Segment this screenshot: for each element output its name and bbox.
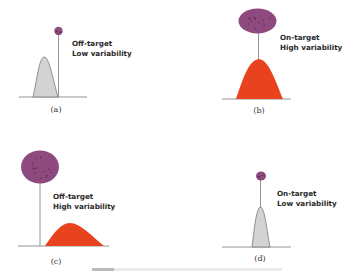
panel-c-line2: High variability — [53, 202, 116, 211]
target-marker — [256, 172, 266, 181]
distribution-curve-low-variability — [252, 207, 270, 247]
target-speck — [46, 175, 47, 176]
target-speck — [259, 176, 260, 177]
panel-a-line2: Low variability — [72, 49, 132, 58]
distribution-curve-low-variability — [33, 57, 58, 97]
target-speck — [46, 177, 47, 178]
target-speck — [36, 168, 37, 169]
panel-b-label: (b) — [253, 106, 264, 115]
panel-d-label: (d) — [254, 254, 265, 263]
target-speck — [258, 22, 259, 23]
target-speck — [250, 20, 251, 21]
target-speck — [44, 171, 45, 172]
target-speck — [33, 162, 34, 163]
distribution-curve-high-variability — [236, 59, 283, 99]
target-speck — [264, 24, 265, 25]
target-speck — [40, 178, 41, 179]
target-speck — [35, 158, 36, 159]
target-speck — [59, 31, 60, 32]
target-marker — [54, 27, 62, 35]
target-marker — [21, 151, 59, 184]
target-speck — [254, 16, 255, 17]
target-speck — [35, 172, 36, 173]
target-speck — [248, 24, 249, 25]
panel-a-label: (a) — [50, 105, 61, 114]
target-speck — [56, 31, 57, 32]
panel-d: On-target Low variability (d) — [222, 172, 337, 264]
target-speck — [248, 18, 249, 19]
target-marker — [239, 9, 277, 34]
target-speck — [262, 175, 263, 176]
target-speck — [269, 17, 270, 18]
panel-b: On-target High variability (b) — [222, 9, 343, 116]
target-speck — [254, 17, 255, 18]
target-speck — [263, 19, 264, 20]
panel-d-line1: On-target — [277, 189, 317, 198]
figure-caption-cutoff — [92, 265, 282, 271]
target-speck — [32, 164, 33, 165]
target-speck — [255, 18, 256, 19]
target-speck — [51, 172, 52, 173]
distribution-curve-high-variability — [45, 223, 104, 246]
target-speck — [250, 18, 251, 19]
target-variability-figure: Off-target Low variability (a) On-target… — [0, 0, 346, 271]
panel-d-line2: Low variability — [277, 199, 337, 208]
panel-b-line1: On-target — [280, 33, 320, 42]
panel-c-label: (c) — [51, 257, 62, 266]
panel-a-line1: Off-target — [72, 39, 113, 48]
panel-c-line1: Off-target — [53, 192, 94, 201]
panel-c: Off-target High variability (c) — [18, 151, 116, 267]
panel-a: Off-target Low variability (a) — [19, 27, 132, 114]
target-speck — [40, 157, 41, 158]
target-speck — [254, 28, 255, 29]
target-speck — [60, 32, 61, 33]
panel-b-line2: High variability — [280, 43, 343, 52]
target-speck — [33, 168, 34, 169]
target-speck — [48, 169, 49, 170]
